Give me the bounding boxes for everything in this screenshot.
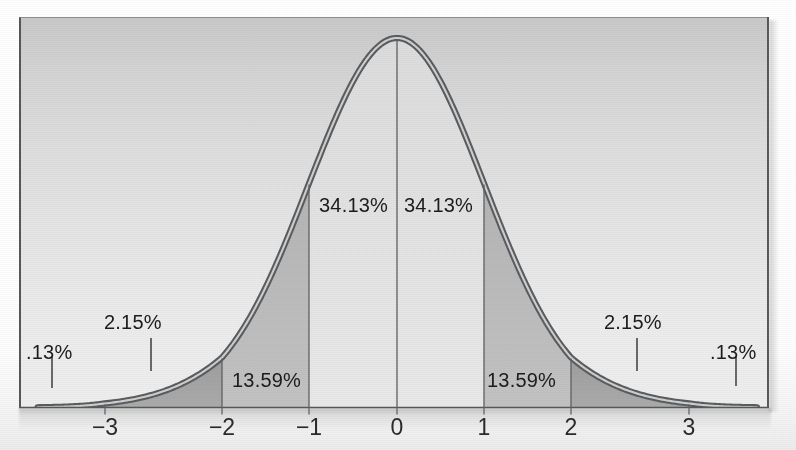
x-axis-label-3: 3 bbox=[683, 414, 696, 441]
x-axis-label-0: 0 bbox=[391, 414, 404, 441]
region-label-right-tail: .13% bbox=[710, 341, 756, 364]
region-label-left-2-15: 2.15% bbox=[104, 311, 162, 334]
shaded-regions-group bbox=[38, 38, 757, 408]
region-neg1-to-0 bbox=[309, 38, 397, 408]
region-divider-lines bbox=[105, 39, 689, 408]
region-0-to-1 bbox=[397, 38, 484, 408]
distribution-chart bbox=[0, 0, 796, 450]
region-label-right-34-13: 34.13% bbox=[404, 194, 473, 217]
normal-distribution-figure: .13% 2.15% 13.59% 34.13% 34.13% 13.59% 2… bbox=[0, 0, 796, 450]
region-label-right-13-59: 13.59% bbox=[487, 369, 556, 392]
x-axis-label-1: 1 bbox=[478, 414, 491, 441]
region-label-left-13-59: 13.59% bbox=[232, 369, 301, 392]
x-axis-label-2: 2 bbox=[565, 414, 578, 441]
x-axis-label-neg3: −3 bbox=[92, 414, 118, 441]
region-label-left-34-13: 34.13% bbox=[319, 194, 388, 217]
region-label-right-2-15: 2.15% bbox=[604, 311, 662, 334]
region-label-left-tail: .13% bbox=[26, 341, 72, 364]
x-axis-label-neg2: −2 bbox=[209, 414, 235, 441]
x-axis-label-neg1: −1 bbox=[296, 414, 322, 441]
